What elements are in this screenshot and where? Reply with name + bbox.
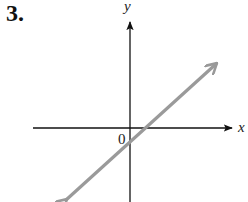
origin-label: 0 [118,131,126,148]
x-axis-label: x [238,119,245,136]
y-axis-label: y [124,0,131,15]
graph-line [66,64,216,200]
coordinate-plot [0,0,248,202]
